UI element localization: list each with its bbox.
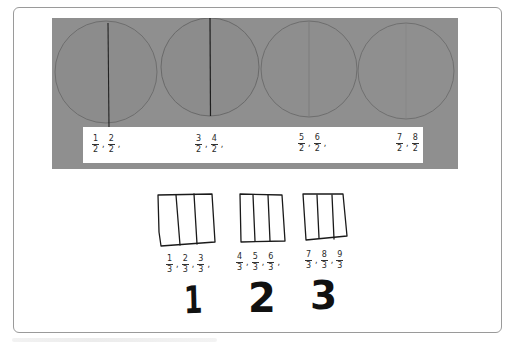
fraction: 7 3 [305,251,312,270]
fraction: 1 3 [166,255,173,274]
whole-rect-3 [303,194,347,240]
whole-rect-2 [240,194,285,242]
fraction: 5 3 [252,253,259,272]
fraction: 8 3 [321,251,328,270]
whole-rect-1 [158,194,215,246]
thirds-group-3: 7 3 , 8 3 , 9 3 [305,251,343,270]
thirds-group-2: 4 3 , 5 3 , 6 3 , [236,253,281,272]
fraction: 6 3 [267,253,274,272]
fraction: 3 3 [197,255,204,274]
fraction: 4 3 [236,253,243,272]
fraction: 9 3 [336,251,343,270]
whole-number-3: 3 [310,276,337,315]
whole-number-2: 2 [248,278,276,318]
faint-caption [12,338,217,342]
thirds-group-1: 1 3 , 2 3 , 3 3 , [166,255,211,274]
whole-number-1: 1 [184,281,203,320]
fraction: 2 3 [182,255,189,274]
